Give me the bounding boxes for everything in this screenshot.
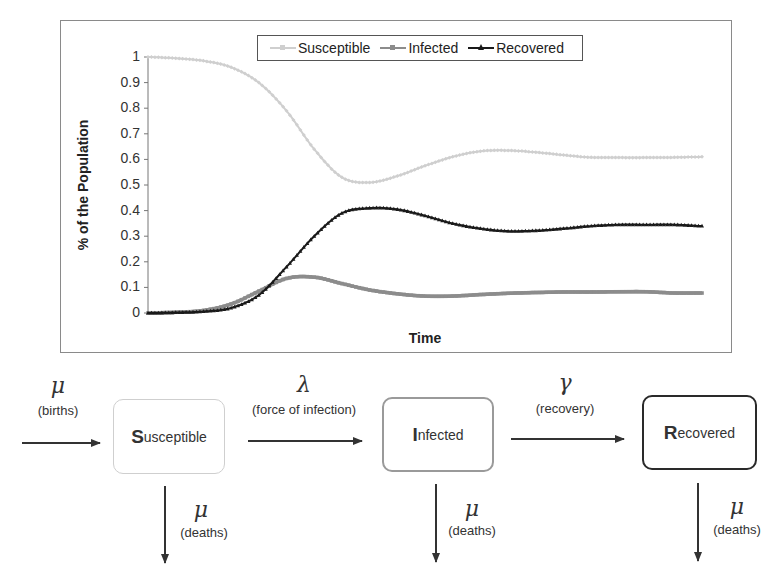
deaths-s-rate-symbol: μ (194, 497, 208, 522)
recovery-rate-label: (recovery) (536, 401, 595, 416)
compartment-label: usceptible (144, 429, 207, 445)
compartment-initial: R (664, 422, 678, 444)
infection-rate-label: (force of infection) (252, 402, 356, 417)
deaths-i-rate-symbol: μ (465, 496, 479, 521)
recovery-rate-symbol: γ (558, 370, 571, 395)
flow-arrows (0, 0, 783, 579)
births-rate-label: (births) (38, 403, 78, 418)
deaths-i-rate-label: (deaths) (448, 523, 496, 538)
deaths-r-rate-label: (deaths) (713, 522, 761, 537)
compartment-label: ecovered (678, 425, 736, 441)
compartment-recovered: Recovered (642, 395, 757, 470)
deaths-r-rate-symbol: μ (730, 494, 744, 519)
infection-rate-symbol: λ (297, 372, 311, 397)
births-rate-symbol: μ (51, 373, 65, 398)
compartment-susceptible: Susceptible (113, 399, 225, 474)
compartment-infected: Infected (382, 397, 494, 472)
compartment-initial: S (131, 426, 144, 448)
deaths-s-rate-label: (deaths) (180, 525, 228, 540)
compartment-label: nfected (418, 427, 464, 443)
